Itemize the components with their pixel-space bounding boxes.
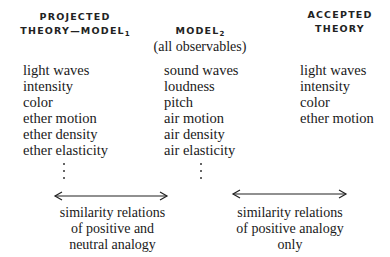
caption-line: of positive analogy [220,221,360,237]
relation-caption-positive-neutral: similarity relations of positive and neu… [40,205,185,253]
caption-line: only [220,237,360,253]
relation-caption-positive-only: similarity relations of positive analogy… [220,205,360,253]
caption-line: neutral analogy [40,237,185,253]
caption-line: of positive and [40,221,185,237]
caption-line: similarity relations [220,205,360,221]
caption-line: similarity relations [40,205,185,221]
